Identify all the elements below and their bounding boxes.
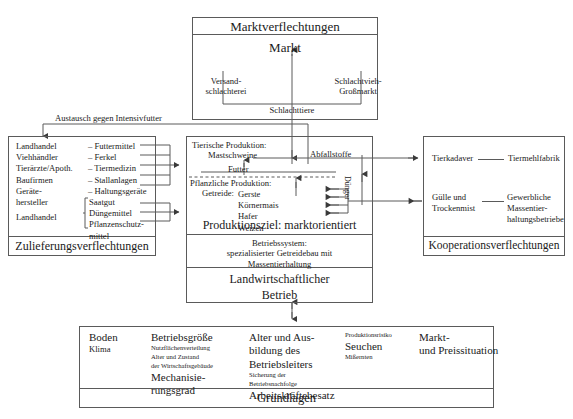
foundations-column: BetriebsgrößeNutzflächenverteilungAlter … <box>151 331 243 397</box>
supply-actor: Baufirmen <box>16 175 86 186</box>
farm-feed-label: Futter <box>228 165 249 175</box>
diagram-canvas: Marktverflechtungen Markt Versand- schla… <box>0 0 573 419</box>
tierkadaver-node: Tierkadaver <box>432 154 473 164</box>
farm-plant-sub: Getreide: <box>202 189 234 199</box>
foundations-item: Mißernten <box>345 353 417 362</box>
supply-group-a-goods: – Futtermittel – Ferkel – Tiermedizin – … <box>88 141 160 197</box>
schlachtvieh-line2: Großmarkt <box>325 86 391 96</box>
foundations-item: Alter und Aus- <box>249 331 341 344</box>
supply-good: – Ferkel <box>88 152 160 163</box>
guelle-line2: Trockenmist <box>432 203 490 214</box>
supply-actor: Landhandel <box>16 212 86 223</box>
foundations-item: Seuchen <box>345 340 417 353</box>
farm-system-block: Betriebssystem: spezialisierter Getreide… <box>186 238 373 269</box>
farm-system-line: Massentierhaltung <box>186 259 373 269</box>
farm-title-line1: Landwirtschaftlicher <box>186 272 373 287</box>
farm-goal-label: Produktionsziel: marktorientiert <box>186 218 373 233</box>
supply-good: – Futtermittel <box>88 141 160 152</box>
farm-system-line: Betriebssystem: <box>186 238 373 248</box>
farm-animal-item: Mastschweine <box>208 151 257 161</box>
foundations-column: Alter und Aus-bildung desBetriebsleiters… <box>249 331 341 402</box>
tiermehlfabrik-node: Tiermehlfabrik <box>508 154 560 164</box>
foundations-column: BodenKlima <box>89 331 147 355</box>
duenger-flow-label: Dünger <box>343 176 352 200</box>
schlachtvieh-grossmarkt-node: Schlachtvieh- Großmarkt <box>325 76 391 97</box>
supply-good: mittel <box>89 231 159 242</box>
foundations-item: Sicherung der <box>249 371 341 380</box>
guelle-trockenmist-node: Gülle und Trockenmist <box>432 192 490 214</box>
foundations-item: Produktionsrisiko <box>345 331 417 340</box>
gewerbliche-line1: Gewerbliche <box>507 192 567 203</box>
foundations-item: bildung des <box>249 344 341 357</box>
foundations-item: Alter und Zustand <box>151 353 243 362</box>
schlachtvieh-line1: Schlachtvieh- <box>325 76 391 86</box>
foundations-columns: BodenKlima BetriebsgrößeNutzflächenverte… <box>89 331 489 386</box>
versandschlachterei-line1: Versand- <box>196 76 256 86</box>
versandschlachterei-node: Versand- schlachterei <box>196 76 256 97</box>
supply-group-b-goods: Saatgut Düngemittel Pflanzenschutz- mitt… <box>89 197 159 242</box>
farm-system-line: spezialisierter Getreidebau mit <box>186 248 373 258</box>
supply-good: Saatgut <box>89 197 159 208</box>
foundations-item: Klima <box>89 344 147 355</box>
foundations-item: Nutzflächenverteilung <box>151 344 243 353</box>
supply-good: Pflanzenschutz- <box>89 219 159 230</box>
foundations-item: Betriebsleiters <box>249 358 341 371</box>
supply-actor: Tierärzte/Apoth. <box>16 163 86 174</box>
cooperation-panel-caption-divider <box>423 236 565 237</box>
abfallstoffe-flow-label: Abfallstoffe <box>310 150 351 160</box>
supply-good: – Tiermedizin <box>88 163 160 174</box>
gewerbliche-massentierhaltung-node: Gewerbliche Massentier- haltungsbetriebe <box>507 192 567 226</box>
supply-group-a-actors: Landhandel Viehhändler Tierärzte/Apoth. … <box>16 141 86 208</box>
supply-actor: Viehhändler <box>16 152 86 163</box>
supply-group-b-actors: Landhandel <box>16 212 86 223</box>
foundations-item: Arbeitskräftebesatz <box>249 389 341 402</box>
austausch-flow-label: Austausch gegen Intensivfutter <box>55 114 162 124</box>
foundations-item: Boden <box>89 331 147 344</box>
supply-good: – Haltungsgeräte <box>88 186 160 197</box>
cooperation-row2-connector <box>482 201 504 202</box>
supply-actor: Geräte- <box>16 186 86 197</box>
foundations-item: rungsgrad <box>151 384 243 397</box>
foundations-item: Betriebsnachfolge <box>249 380 341 389</box>
gewerbliche-line2: Massentier- <box>507 203 567 214</box>
farm-crop: Gerste <box>238 189 308 200</box>
versandschlachterei-line2: schlachterei <box>196 86 256 96</box>
farm-title-line2: Betrieb <box>186 288 373 303</box>
market-node-label: Markt <box>192 40 378 56</box>
market-panel-caption: Marktverflechtungen <box>192 19 378 35</box>
cooperation-panel-caption: Kooperationsverflechtungen <box>423 239 565 251</box>
foundations-column: ProduktionsrisikoSeuchenMißernten <box>345 331 417 362</box>
supply-actor: hersteller <box>16 197 86 208</box>
foundations-item: und Preissituation <box>419 344 529 357</box>
foundations-item: Markt- <box>419 331 529 344</box>
foundations-item: Mechanisie- <box>151 371 243 384</box>
cooperation-row1-connector <box>478 159 504 160</box>
foundations-column: Markt-und Preissituation <box>419 331 529 358</box>
foundations-item: Betriebsgröße <box>151 331 243 344</box>
gewerbliche-line3: haltungsbetriebe <box>507 214 567 225</box>
schlachttiere-flow-label: Schlachttiere <box>242 105 342 115</box>
supply-good: – Stallanlagen <box>88 175 160 186</box>
supply-good: Düngemittel <box>89 208 159 219</box>
farm-crop: Körnermais <box>238 200 308 211</box>
supply-actor: Landhandel <box>16 141 86 152</box>
foundations-item: der Wirtschaftsgebäude <box>151 362 243 371</box>
farm-goal-divider <box>186 234 373 235</box>
